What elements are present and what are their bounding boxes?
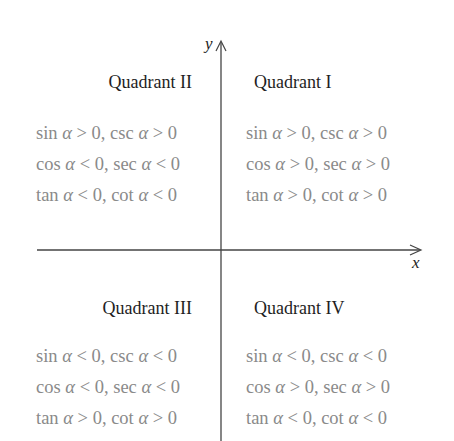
sign-row-cos-sec: cos α > 0, sec α > 0 (246, 149, 390, 180)
quadrant-iii-rows: sin α < 0, csc α < 0 cos α < 0, sec α < … (36, 341, 180, 434)
quadrant-iii: Quadrant III (103, 298, 192, 319)
y-axis-label: y (205, 34, 213, 54)
sign-row-tan-cot: tan α < 0, cot α < 0 (36, 180, 180, 211)
sign-row-tan-cot: tan α > 0, cot α > 0 (246, 180, 390, 211)
quadrant-title: Quadrant II (109, 72, 192, 93)
quadrant-title: Quadrant I (254, 72, 331, 93)
quadrant-iv: Quadrant IV (254, 298, 344, 319)
quadrant-title: Quadrant IV (254, 298, 344, 319)
quadrant-i-rows: sin α > 0, csc α > 0 cos α > 0, sec α > … (246, 118, 390, 211)
sign-row-sin-csc: sin α < 0, csc α < 0 (246, 341, 390, 372)
quadrant-ii: Quadrant II (109, 72, 192, 93)
quadrant-ii-rows: sin α > 0, csc α > 0 cos α < 0, sec α < … (36, 118, 180, 211)
quadrant-iv-rows: sin α < 0, csc α < 0 cos α > 0, sec α > … (246, 341, 390, 434)
quadrant-i: Quadrant I (254, 72, 331, 93)
sign-row-sin-csc: sin α < 0, csc α < 0 (36, 341, 180, 372)
sign-row-tan-cot: tan α > 0, cot α > 0 (36, 403, 180, 434)
sign-row-sin-csc: sin α > 0, csc α > 0 (36, 118, 180, 149)
x-axis-label: x (412, 253, 420, 273)
x-axis (37, 245, 421, 255)
sign-row-sin-csc: sin α > 0, csc α > 0 (246, 118, 390, 149)
sign-row-cos-sec: cos α < 0, sec α < 0 (36, 372, 180, 403)
sign-row-cos-sec: cos α > 0, sec α > 0 (246, 372, 390, 403)
sign-row-tan-cot: tan α < 0, cot α < 0 (246, 403, 390, 434)
y-axis (216, 41, 226, 441)
sign-row-cos-sec: cos α < 0, sec α < 0 (36, 149, 180, 180)
quadrant-title: Quadrant III (103, 298, 192, 319)
